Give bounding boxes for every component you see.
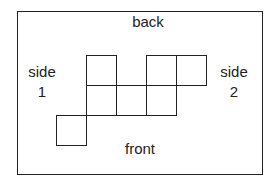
label-side-2: side 2 xyxy=(212,62,256,102)
net-square xyxy=(86,85,117,116)
net-square xyxy=(146,55,177,86)
label-side-2-number: 2 xyxy=(212,82,256,102)
label-side-1-number: 1 xyxy=(20,82,64,102)
label-side-1-word: side xyxy=(20,62,64,82)
label-front: front xyxy=(110,139,170,159)
net-square xyxy=(56,115,87,146)
label-side-2-word: side xyxy=(212,62,256,82)
net-square xyxy=(116,85,147,116)
label-side-1: side 1 xyxy=(20,62,64,102)
label-back: back xyxy=(118,12,178,32)
net-square xyxy=(176,55,207,86)
net-square xyxy=(86,55,117,86)
net-square xyxy=(146,85,177,116)
